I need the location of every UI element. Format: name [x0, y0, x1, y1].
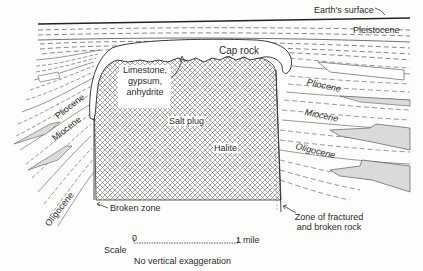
- label-halite: Halite: [213, 143, 238, 153]
- salt-dome-diagram: Earth's surface Pleistocene Cap rock Lim…: [0, 0, 423, 271]
- earth-surface-arrow: [375, 8, 385, 15]
- label-fractured-zone-line1: Zone of fractured: [284, 212, 374, 222]
- label-broken-zone: Broken zone: [110, 203, 161, 213]
- right-sand-wedge-pliocene: [340, 96, 410, 106]
- label-anhydrite: anhydrite: [119, 87, 171, 97]
- scale-start: 0: [132, 233, 137, 243]
- label-salt-plug: Salt plug: [168, 116, 205, 126]
- scale-label: Scale: [104, 245, 127, 255]
- scale-note: No vertical exaggeration: [134, 256, 231, 266]
- label-fractured-zone-line2: and broken rock: [284, 222, 374, 232]
- label-pleistocene: Pleistocene: [353, 25, 400, 35]
- label-gypsum: gypsum,: [119, 76, 171, 86]
- scale-unit: mile: [243, 235, 260, 245]
- left-limestone-bed: [38, 72, 60, 82]
- scale-end: 1: [236, 235, 241, 245]
- scale-bar: [134, 238, 238, 243]
- label-cap-rock: Cap rock: [218, 46, 260, 56]
- right-sand-wedge-miocene: [330, 124, 410, 150]
- right-sand-wedge-oligocene: [330, 160, 410, 192]
- label-limestone: Limestone,: [119, 65, 171, 75]
- label-earth-surface: Earth's surface: [314, 5, 374, 15]
- left-sand-wedge-2: [28, 146, 72, 170]
- earth-surface-line: [38, 18, 410, 24]
- right-limestone-bed: [318, 62, 404, 80]
